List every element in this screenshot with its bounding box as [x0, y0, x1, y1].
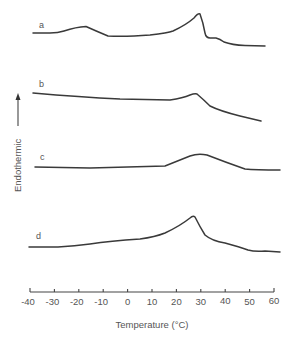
tick-label: -40: [21, 296, 35, 307]
curve-a-trace: [33, 14, 265, 46]
curve-label-b: b: [39, 79, 44, 89]
curve-label-a: a: [39, 20, 44, 30]
curve-d: d: [29, 216, 280, 252]
tick-label: 40: [220, 295, 231, 306]
tick-label: 20: [171, 296, 182, 307]
x-axis-ticks: [30, 288, 274, 292]
tick-label: 10: [147, 296, 158, 307]
y-axis-title: Endothermic: [12, 138, 23, 192]
tick-label: 60: [269, 295, 280, 306]
arrow-up-icon: [16, 93, 21, 100]
curve-d-trace: [29, 216, 280, 252]
curve-label-d: d: [36, 231, 41, 241]
curve-c-trace: [35, 154, 280, 170]
dsc-thermogram-chart: Endothermic a b c d: [0, 0, 293, 341]
tick-label: -10: [94, 296, 108, 307]
curve-b: b: [33, 79, 261, 121]
tick-label: 30: [196, 296, 207, 307]
curve-a: a: [33, 14, 265, 46]
x-axis: -40 -30 -20 -10 0 10 20 30 40 50 60 Temp…: [21, 288, 279, 330]
curve-b-trace: [33, 93, 261, 121]
tick-label: 0: [125, 296, 130, 307]
y-axis-indicator: Endothermic: [12, 93, 23, 192]
curve-label-c: c: [40, 152, 45, 162]
curve-c: c: [35, 152, 280, 170]
tick-label: -30: [46, 296, 60, 307]
tick-label: -20: [70, 296, 84, 307]
x-axis-tick-labels: -40 -30 -20 -10 0 10 20 30 40 50 60: [21, 295, 279, 307]
tick-label: 50: [244, 296, 255, 307]
x-axis-title: Temperature (°C): [116, 319, 189, 330]
